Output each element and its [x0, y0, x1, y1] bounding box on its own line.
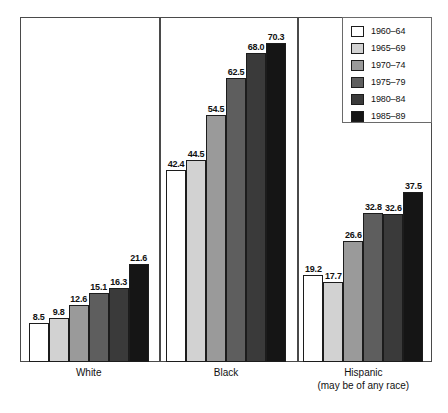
legend-item-label: 1985–89: [371, 111, 405, 121]
bar: [363, 213, 383, 362]
bar-group-white: 8.59.812.615.116.321.6: [29, 17, 149, 362]
bar-value-label: 21.6: [125, 253, 153, 263]
x-axis-label-main: White: [76, 367, 102, 378]
legend-item-4: 1975–79: [351, 74, 431, 90]
x-axis-label-hispanic: Hispanic(may be of any race): [295, 366, 432, 392]
bar: [186, 160, 206, 362]
legend-swatch-icon: [351, 43, 364, 54]
bar: [343, 241, 363, 362]
bar: [109, 288, 129, 362]
legend-item-2: 1965–69: [351, 40, 431, 56]
bar: [403, 192, 423, 362]
legend-item-label: 1970–74: [371, 60, 405, 70]
bar: [266, 43, 286, 362]
x-axis-label-main: Black: [214, 367, 238, 378]
legend: 1960–641965–691970–741975–791980–841985–…: [342, 17, 432, 123]
x-axis-label-black: Black: [157, 366, 294, 379]
bar-group-black: 42.444.554.562.568.070.3: [166, 17, 286, 362]
bar: [246, 53, 266, 362]
bar-chart: 8.59.812.615.116.321.642.444.554.562.568…: [0, 0, 448, 413]
bar: [89, 293, 109, 362]
legend-swatch-icon: [351, 26, 364, 37]
legend-swatch-icon: [351, 111, 364, 122]
bar: [49, 318, 69, 362]
legend-item-label: 1960–64: [371, 26, 405, 36]
legend-item-label: 1980–84: [371, 94, 405, 104]
bar: [29, 323, 49, 362]
bar: [383, 214, 403, 362]
legend-item-label: 1975–79: [371, 77, 405, 87]
x-axis-label-main: Hispanic: [344, 367, 382, 378]
bar: [323, 282, 343, 362]
x-axis-label-white: White: [20, 366, 157, 379]
bar: [303, 275, 323, 362]
x-axis-labels: WhiteBlackHispanic(may be of any race): [20, 366, 432, 411]
legend-item-1: 1960–64: [351, 23, 431, 39]
legend-swatch-icon: [351, 94, 364, 105]
legend-item-5: 1980–84: [351, 91, 431, 107]
bar: [69, 305, 89, 362]
legend-swatch-icon: [351, 77, 364, 88]
bar-value-label: 70.3: [262, 32, 290, 42]
legend-item-3: 1970–74: [351, 57, 431, 73]
legend-item-label: 1965–69: [371, 43, 405, 53]
legend-item-6: 1985–89: [351, 108, 431, 124]
legend-swatch-icon: [351, 60, 364, 71]
bar: [166, 170, 186, 362]
bar-value-label: 37.5: [399, 181, 427, 191]
bar: [226, 78, 246, 362]
bar: [206, 115, 226, 362]
bar: [129, 264, 149, 362]
x-axis-label-sub: (may be of any race): [295, 379, 432, 392]
